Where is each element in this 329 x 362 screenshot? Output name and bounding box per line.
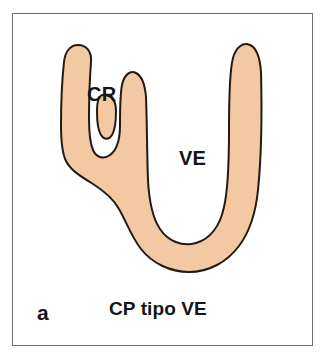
annotation-label-cr: CR — [87, 84, 116, 104]
figure-caption: CP tipo VE — [109, 299, 207, 318]
figure-frame — [12, 13, 313, 346]
figure-page: CR VE a CP tipo VE — [0, 0, 329, 362]
panel-letter-label: a — [37, 302, 49, 323]
annotation-label-ve: VE — [179, 148, 206, 168]
